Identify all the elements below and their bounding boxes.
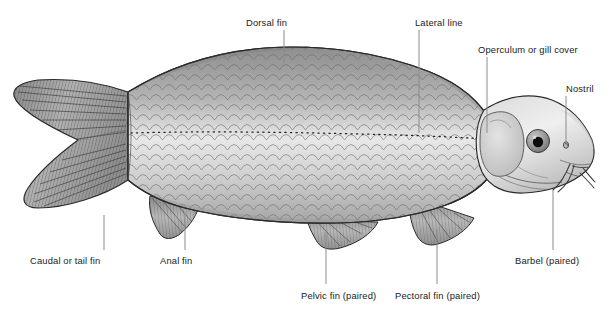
label-caudal-fin: Caudal or tail fin	[30, 256, 100, 265]
label-pelvic-fin: Pelvic fin (paired)	[301, 291, 376, 300]
label-barbel: Barbel (paired)	[515, 256, 579, 265]
label-pectoral-fin: Pectoral fin (paired)	[395, 291, 480, 300]
fish-head	[476, 96, 595, 193]
fish-body	[120, 40, 505, 235]
label-dorsal-fin: Dorsal fin	[246, 18, 287, 27]
label-nostril: Nostril	[566, 84, 594, 93]
fish-anatomy-diagram: Dorsal finLateral lineOperculum or gill …	[0, 0, 609, 320]
label-lateral-line: Lateral line	[415, 18, 463, 27]
eye	[527, 130, 550, 153]
label-anal-fin: Anal fin	[160, 256, 192, 265]
label-operculum: Operculum or gill cover	[478, 45, 578, 54]
